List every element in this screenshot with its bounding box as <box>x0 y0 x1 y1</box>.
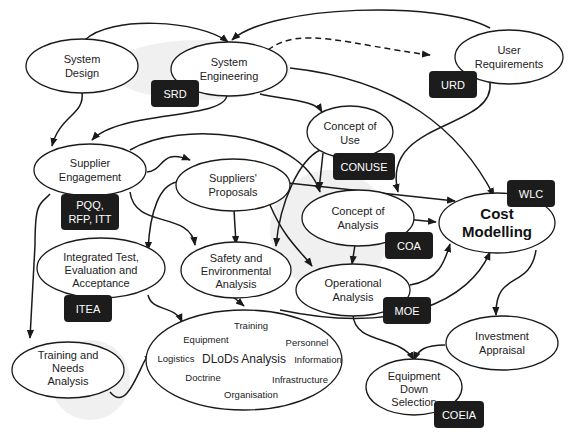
node-label-line3: Analysis <box>48 375 89 387</box>
node-label-line3: Acceptance <box>72 277 129 289</box>
node-label-line2: Analysis <box>338 219 379 231</box>
dlod-infrastructure: Infrastructure <box>272 374 328 385</box>
tag-label-line1: PQQ, <box>76 199 104 211</box>
edge-cost-to-investment <box>496 250 536 315</box>
tag-label: COA <box>397 240 422 252</box>
node-label-line1: Integrated Test, <box>63 251 139 263</box>
node-suppliers-proposals[interactable]: Suppliers' Proposals <box>176 159 290 211</box>
tag-label-line2: RFP, ITT <box>68 213 111 225</box>
node-label-line2: Needs <box>52 362 84 374</box>
tag-conuse: CONUSE <box>333 153 395 180</box>
dlod-logistics: Logistics <box>158 353 195 364</box>
tag-label: SRD <box>163 88 186 100</box>
tag-moe: MOE <box>383 297 431 324</box>
node-safety-environmental-analysis[interactable]: Safety and Environmental Analysis <box>181 242 291 298</box>
node-label-line3: Selection <box>391 396 436 408</box>
node-label-line1: User <box>497 44 521 56</box>
tag-label: MOE <box>394 305 419 317</box>
node-label-line1: Training and <box>38 349 99 361</box>
node-supplier-engagement[interactable]: Supplier Engagement <box>34 144 146 196</box>
tag-label: COEIA <box>442 409 477 421</box>
edge-userreq-to-coa <box>396 83 490 192</box>
tag-wlc: WLC <box>507 180 555 207</box>
node-label-line2: Engineering <box>200 70 259 82</box>
dlod-information: Information <box>294 354 342 365</box>
node-label-line2: Down <box>400 383 428 395</box>
node-label-line1: Supplier <box>70 157 111 169</box>
node-label-line2: Requirements <box>475 58 544 70</box>
tag-label: ITEA <box>76 303 101 315</box>
node-concept-of-use[interactable]: Concept of Use <box>307 106 393 158</box>
node-label-line2: Environmental <box>201 265 271 277</box>
edge-urd-to-engineering <box>232 10 490 40</box>
node-integrated-test-evaluation-acceptance[interactable]: Integrated Test, Evaluation and Acceptan… <box>37 238 165 298</box>
node-training-needs-analysis[interactable]: Training and Needs Analysis <box>12 342 124 398</box>
node-label-line2: Design <box>65 67 99 79</box>
edge-supplier-to-proposals <box>147 156 190 172</box>
node-label-line2: Use <box>340 134 360 146</box>
node-label-line2: Modelling <box>462 223 532 240</box>
edge-itea-to-dlods <box>148 295 182 322</box>
node-label-line1: Operational <box>325 277 382 289</box>
tag-label: CONUSE <box>340 161 387 173</box>
node-label-line1: System <box>64 53 101 65</box>
dlod-center-label: DLoDs Analysis <box>202 352 286 366</box>
node-label-line2: Evaluation and <box>65 264 138 276</box>
tag-label: WLC <box>519 188 544 200</box>
edge-engineering-to-conuse <box>260 94 322 112</box>
tag-srd: SRD <box>151 80 199 107</box>
dlod-organisation: Organisation <box>224 389 278 400</box>
tag-itea: ITEA <box>64 295 112 322</box>
edge-design-to-supplier <box>52 92 82 146</box>
edge-proposals-to-safety <box>234 210 236 244</box>
node-label-line2: Proposals <box>209 186 258 198</box>
node-label-line3: Analysis <box>216 278 257 290</box>
node-label-line1: System <box>211 56 248 68</box>
node-label-line1: Suppliers' <box>209 172 257 184</box>
edge-investment-to-eds <box>414 345 445 360</box>
node-label-line2: Analysis <box>333 291 374 303</box>
node-label-line1: Safety and <box>210 252 263 264</box>
node-label-line1: Equipment <box>388 370 441 382</box>
edge-engineering-to-user-req-dashed <box>268 38 430 55</box>
node-dlods-analysis[interactable]: Training Equipment Personnel Logistics D… <box>146 310 342 410</box>
tag-coeia: COEIA <box>434 401 484 428</box>
node-label-line2: Appraisal <box>479 344 525 356</box>
node-label-line2: Engagement <box>59 171 121 183</box>
dlod-personnel: Personnel <box>286 337 329 348</box>
node-label-line1: Investment <box>475 330 529 342</box>
dlod-doctrine: Doctrine <box>185 372 220 383</box>
node-investment-appraisal[interactable]: Investment Appraisal <box>446 316 558 370</box>
node-system-design[interactable]: System Design <box>26 39 138 93</box>
dlod-training: Training <box>234 320 268 331</box>
tag-coa: COA <box>385 232 433 259</box>
tag-label: URD <box>441 79 465 91</box>
node-label-line1: Concept of <box>331 205 385 217</box>
node-label-line1: Cost <box>480 205 513 222</box>
edge-proposals-to-itea <box>148 182 177 250</box>
tag-pqq-rfp-itt: PQQ, RFP, ITT <box>61 194 119 230</box>
edge-design-to-engineering <box>85 23 228 42</box>
tag-urd: URD <box>429 71 477 98</box>
dlod-equipment: Equipment <box>183 334 229 345</box>
node-label-line1: Concept of <box>323 120 377 132</box>
process-diagram: System Design System Engineering SRD Use… <box>0 0 568 442</box>
